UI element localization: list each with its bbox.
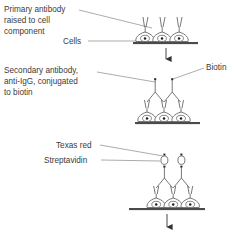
texas-red-dot <box>163 154 165 156</box>
cell-nucleus-dot <box>189 203 192 206</box>
biotin-dots <box>163 166 182 168</box>
texas-red-label: Texas red <box>56 141 92 150</box>
substrate-line <box>135 122 200 124</box>
cells-label: Cells <box>63 37 81 46</box>
cells-label-text: Cells <box>63 37 81 46</box>
immunofluorescence-diagram: Primary antibody raised to cell componen… <box>0 0 236 234</box>
biotin-dot <box>154 78 156 80</box>
biotin-dots <box>154 78 173 80</box>
texas-red-label-text: Texas red <box>56 141 92 150</box>
streptavidin-label-text: Streptavidin <box>44 156 88 165</box>
cell-nucleus-dot <box>180 117 183 120</box>
texas-red-dot <box>180 154 182 156</box>
primary-antibody-label-line3: component <box>4 27 45 36</box>
cells-group <box>136 32 188 42</box>
cell-nucleus-dot <box>163 117 166 120</box>
cells-group <box>147 198 199 208</box>
primary-antibodies <box>143 17 182 33</box>
secondary-antibody-label-line3: to biotin <box>4 88 33 97</box>
cell-nucleus-dot <box>146 117 149 120</box>
primary-antibody-label: Primary antibody raised to cell componen… <box>4 5 66 36</box>
panel-secondary-antibody: Secondary antibody, anti-IgG, conjugated… <box>4 63 227 124</box>
panel-streptavidin: Texas red Streptavidin <box>44 141 205 227</box>
streptavidin-circles <box>161 156 185 164</box>
cell-nucleus-dot <box>144 37 147 40</box>
biotin-label-text: Biotin <box>206 63 227 72</box>
secondary-antibody-label: Secondary antibody, anti-IgG, conjugated… <box>4 66 78 97</box>
streptavidin-leader-line <box>101 160 160 161</box>
secondary-antibodies <box>147 80 181 102</box>
streptavidin-circle <box>178 156 185 164</box>
streptavidin-circle <box>161 156 168 164</box>
cell-nucleus-dot <box>155 203 158 206</box>
cell-nucleus-dot <box>178 37 181 40</box>
texas-red-dots <box>163 154 182 156</box>
primary-antibody-label-line1: Primary antibody <box>4 5 66 14</box>
substrate-line <box>129 208 205 210</box>
cells-group <box>138 112 190 122</box>
biotin-label: Biotin <box>206 63 227 72</box>
secondary-antibodies <box>156 167 189 188</box>
primary-antibody-label-line2: raised to cell <box>4 16 50 25</box>
cell-nucleus-dot <box>161 37 164 40</box>
substrate-line <box>133 42 198 44</box>
secondary-antibody-leader-line <box>97 72 155 82</box>
streptavidin-label: Streptavidin <box>44 156 88 165</box>
secondary-antibody-label-line1: Secondary antibody, <box>4 66 78 75</box>
cell-nucleus-dot <box>172 203 175 206</box>
secondary-antibody-label-line2: anti-IgG, conjugated <box>4 77 78 86</box>
biotin-leader-line <box>173 68 204 79</box>
texas-red-leader-line <box>100 145 163 156</box>
panel-primary-antibody: Primary antibody raised to cell componen… <box>4 5 198 59</box>
primary-antibody-leader-line <box>79 10 152 28</box>
biotin-dot <box>171 78 173 80</box>
